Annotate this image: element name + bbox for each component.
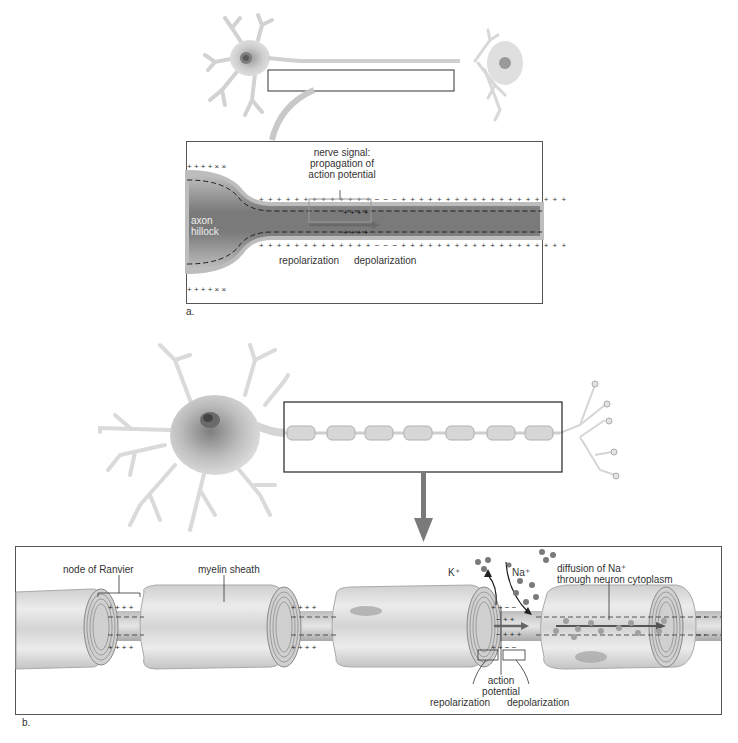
- node-of-ranvier-label: node of Ranvier: [63, 564, 134, 575]
- zoom-callout-box-a: [268, 70, 454, 91]
- svg-text:− + + +: − + + +: [496, 630, 522, 639]
- k-ion-label: K⁺: [448, 567, 460, 578]
- myelin-segments: [287, 426, 553, 440]
- repolarization-label-a: repolarization: [279, 255, 339, 266]
- panel-b-detail-right: + + + ++ + + + + + + ++ + + + + + − −+ +…: [15, 546, 722, 715]
- svg-text:+ + − −: + + − −: [491, 643, 517, 652]
- svg-text:+ + + + + + + + + + + + + − −: + + + + + + + + + + + + + − − − + + + + …: [259, 195, 567, 204]
- svg-text:+ + + +: + + + +: [108, 643, 134, 652]
- down-arrow-icon: [414, 518, 433, 542]
- svg-text:+ + + +: + + + +: [291, 603, 317, 612]
- diffusion-label: diffusion of Na⁺ through neuron cytoplas…: [557, 563, 673, 585]
- nerve-signal-label: nerve signal: propagation of action pote…: [292, 147, 392, 180]
- svg-text:+ + + +: + + + +: [108, 603, 134, 612]
- panel-a-overview: [0, 0, 738, 140]
- svg-text:+ + + +: + + + +: [291, 643, 317, 652]
- svg-text:+ + − −: + + − −: [491, 603, 517, 612]
- myelin-sheath-label: myelin sheath: [198, 564, 260, 575]
- action-potential-label: action potential: [481, 675, 521, 697]
- plus-charges-top-curve: + + + + × ×: [187, 162, 226, 171]
- repolarization-label-b: repolarization: [430, 697, 490, 708]
- na-ion-label: Na⁺: [512, 567, 530, 578]
- svg-text:+ + + +: + + + +: [343, 208, 369, 217]
- svg-text:+ + + + × ×: + + + + × ×: [187, 285, 226, 294]
- axon-hillock-label: axon hillock: [191, 215, 219, 237]
- svg-text:+ + + +: + + + +: [343, 228, 369, 237]
- panel-a-detail: + + + + × × + + + + + + + + + + + + + − …: [186, 141, 543, 304]
- depolarization-label-a: depolarization: [354, 255, 416, 266]
- curved-arrow-icon: [272, 90, 314, 140]
- panel-a-letter: a.: [186, 306, 194, 317]
- soma-b: [170, 395, 260, 475]
- neuron-pair-illustration: [0, 0, 738, 140]
- panel-b-letter: b.: [22, 717, 30, 728]
- depolarization-label-b: depolarization: [507, 697, 569, 708]
- myelinated-neuron-illustration: [0, 320, 738, 545]
- svg-text:+ + + + + + + + + + + + + − −: + + + + + + + + + + + + + − − − + + + + …: [259, 241, 567, 250]
- panel-b-overview: [0, 320, 738, 545]
- svg-text:− + +: − + +: [496, 615, 515, 624]
